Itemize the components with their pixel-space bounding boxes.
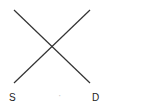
demand-label: D bbox=[92, 93, 99, 103]
supply-demand-diagram bbox=[0, 0, 164, 111]
middle-dot: · bbox=[58, 91, 61, 101]
supply-label: S bbox=[9, 93, 16, 103]
